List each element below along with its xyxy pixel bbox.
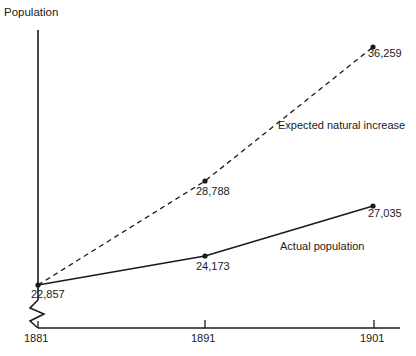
data-label-22857: 22,857 (31, 288, 65, 301)
data-label-28788: 28,788 (196, 185, 230, 198)
data-point-origin-22857 (35, 282, 40, 287)
y-axis-break-zigzag (30, 300, 44, 328)
x-tick-label-1891: 1891 (191, 332, 215, 345)
data-label-27035: 27,035 (368, 207, 402, 220)
x-tick-label-1901: 1901 (360, 332, 384, 345)
x-tick-label-1881: 1881 (24, 332, 48, 345)
series-annotation-actual-population: Actual population (280, 240, 364, 253)
data-point-expected-28788 (202, 178, 207, 183)
y-axis-title: Population (4, 6, 58, 19)
data-label-36259: 36,259 (368, 47, 402, 60)
data-label-24173: 24,173 (196, 260, 230, 273)
series-annotation-expected-natural-increase: Expected natural increase (278, 119, 405, 132)
population-line-chart: Population 1881 1891 1901 22,857 28,788 … (0, 0, 416, 356)
chart-canvas (0, 0, 416, 356)
data-point-actual-24173 (202, 253, 207, 258)
